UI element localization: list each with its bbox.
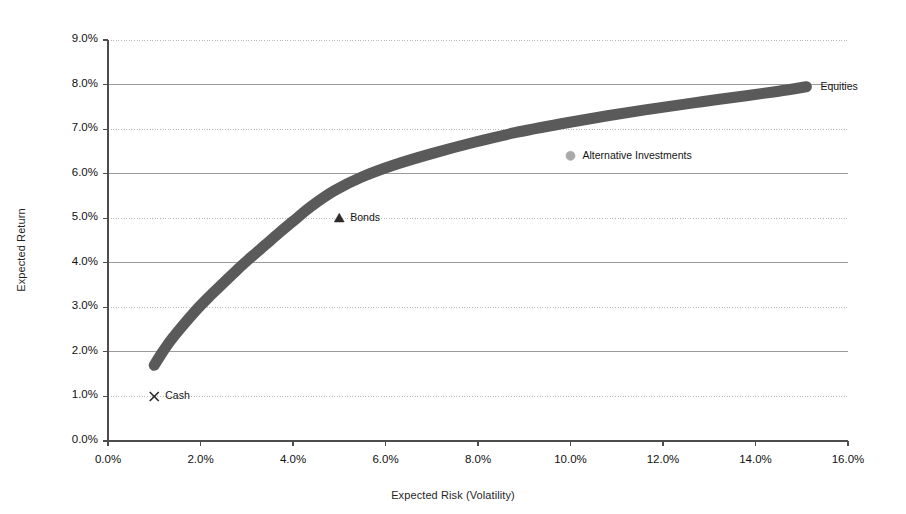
y-tick-label-9: 9.0% xyxy=(50,32,98,44)
x-tick-label-0: 0.0% xyxy=(78,453,138,465)
y-tick-label-7: 7.0% xyxy=(50,121,98,133)
x-tick-label-8: 8.0% xyxy=(448,453,508,465)
data-point-markers xyxy=(150,151,575,401)
point-label-cash: Cash xyxy=(165,389,190,401)
x-tick-label-16: 16.0% xyxy=(818,453,878,465)
y-tick-label-2: 2.0% xyxy=(50,344,98,356)
y-axis-title-wrapper: Expected Return xyxy=(10,150,32,350)
circle-marker-2 xyxy=(566,151,575,160)
x-tick-label-12: 12.0% xyxy=(633,453,693,465)
frontier-line-0 xyxy=(154,87,806,365)
y-tick-label-4: 4.0% xyxy=(50,255,98,267)
efficient-frontier-chart: Expected Return Expected Risk (Volatilit… xyxy=(0,0,906,514)
y-tick-label-0: 0.0% xyxy=(50,433,98,445)
x-tick-label-2: 2.0% xyxy=(171,453,231,465)
x-tick-label-4: 4.0% xyxy=(263,453,323,465)
x-axis-title: Expected Risk (Volatility) xyxy=(0,489,906,501)
y-tick-label-6: 6.0% xyxy=(50,166,98,178)
x-tick-label-6: 6.0% xyxy=(356,453,416,465)
y-axis-title: Expected Return xyxy=(15,170,27,330)
plot-canvas xyxy=(0,0,906,514)
y-tick-label-3: 3.0% xyxy=(50,299,98,311)
y-tick-label-5: 5.0% xyxy=(50,210,98,222)
annotation-label-equities: Equities xyxy=(820,80,857,92)
y-tick-label-8: 8.0% xyxy=(50,77,98,89)
x-tick-label-10: 10.0% xyxy=(541,453,601,465)
point-label-bonds: Bonds xyxy=(350,211,380,223)
x-tick-label-14: 14.0% xyxy=(726,453,786,465)
point-label-alternative-investments: Alternative Investments xyxy=(583,149,692,161)
y-tick-label-1: 1.0% xyxy=(50,388,98,400)
frontier-series xyxy=(154,87,806,365)
triangle-marker-1 xyxy=(334,213,344,222)
